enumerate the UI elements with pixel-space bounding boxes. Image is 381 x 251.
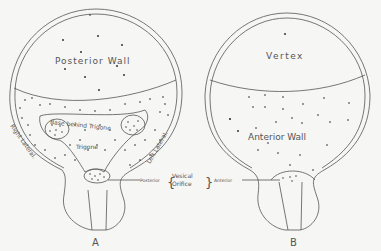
posterior-wall-label: Posterior Wall [55, 56, 130, 66]
bladder-diagram: Posterior Wall Base behind Trigone Trigo… [0, 0, 381, 251]
panel-b-label: B [290, 237, 297, 248]
base-behind-trigone-label: Base behind Trigone [50, 118, 112, 132]
trigone-label: Trigone [75, 143, 98, 151]
panel-b-outline [205, 13, 370, 230]
panel-a-label: A [92, 237, 99, 248]
orifice-posterior-label: Posterior [140, 178, 160, 183]
stipple-dots [19, 14, 350, 182]
right-lateral-label: Right Lateral. [8, 123, 38, 161]
brace-left: { [167, 175, 175, 190]
panel-a-outline [10, 9, 182, 230]
vertex-label: Vertex [266, 51, 304, 61]
left-lateral-label: Left Lateral. [145, 130, 169, 165]
anterior-wall-label: Anterior Wall [248, 132, 306, 142]
orifice-anterior-label: Anterior [214, 178, 232, 183]
brace-right: } [205, 175, 213, 190]
